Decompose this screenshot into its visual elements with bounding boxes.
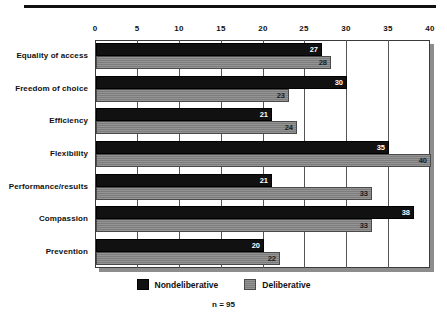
- bar-value-label: 21: [260, 111, 268, 119]
- category-label: Equality of access: [0, 51, 88, 60]
- x-tick-label-5: 5: [135, 24, 140, 33]
- bar-deliberative: 22: [96, 252, 280, 265]
- legend-label: Nondeliberative: [155, 280, 219, 290]
- category-label: Freedom of choice: [0, 84, 88, 93]
- bar-nondeliberative: 38: [96, 206, 414, 219]
- bar-deliberative: 23: [96, 89, 289, 102]
- sample-size-footnote: n = 95: [0, 300, 447, 309]
- bar-nondeliberative: 21: [96, 174, 272, 187]
- bar-deliberative: 33: [96, 219, 372, 232]
- x-tick-label-0: 0: [93, 24, 98, 33]
- bar-deliberative: 24: [96, 121, 297, 134]
- category-label: Flexibility: [0, 149, 88, 158]
- bar-value-label: 22: [268, 255, 276, 263]
- bar-nondeliberative: 21: [96, 108, 272, 121]
- bar-value-label: 33: [360, 190, 368, 198]
- x-tick-label-20: 20: [258, 24, 267, 33]
- legend-swatch-icon: [244, 279, 256, 290]
- bar-nondeliberative: 30: [96, 76, 347, 89]
- bar-value-label: 21: [260, 177, 268, 185]
- bar-value-label: 38: [402, 209, 410, 217]
- bar-value-label: 20: [252, 242, 260, 250]
- x-tick-label-10: 10: [174, 24, 183, 33]
- legend-label: Deliberative: [262, 280, 310, 290]
- bar-deliberative: 33: [96, 187, 372, 200]
- category-label: Efficiency: [0, 116, 88, 125]
- bar-deliberative: 40: [96, 154, 431, 167]
- category-label: Performance/results: [0, 182, 88, 191]
- grouped-bar-chart: 0510152025303540 Equality of accessFreed…: [0, 0, 447, 321]
- bar-value-label: 30: [335, 79, 343, 87]
- plot-shadow-bottom: [99, 268, 434, 272]
- bar-nondeliberative: 20: [96, 239, 264, 252]
- bar-value-label: 35: [377, 144, 385, 152]
- bar-value-label: 40: [419, 157, 427, 165]
- legend-item-nondeliberative[interactable]: Nondeliberative: [137, 279, 219, 290]
- bar-value-label: 23: [277, 92, 285, 100]
- bar-nondeliberative: 35: [96, 141, 389, 154]
- bar-value-label: 33: [360, 222, 368, 230]
- category-label: Compassion: [0, 214, 88, 223]
- x-tick-label-35: 35: [383, 24, 392, 33]
- bar-deliberative: 28: [96, 56, 331, 69]
- legend-swatch-icon: [137, 279, 149, 290]
- x-tick-label-40: 40: [425, 24, 434, 33]
- bar-value-label: 27: [310, 46, 318, 54]
- category-label: Prevention: [0, 247, 88, 256]
- bar-nondeliberative: 27: [96, 43, 322, 56]
- x-tick-label-30: 30: [341, 24, 350, 33]
- bar-value-label: 28: [319, 59, 327, 67]
- bar-value-label: 24: [285, 124, 293, 132]
- x-tick-label-15: 15: [216, 24, 225, 33]
- legend-item-deliberative[interactable]: Deliberative: [244, 279, 310, 290]
- x-tick-label-25: 25: [299, 24, 308, 33]
- chart-legend: NondeliberativeDeliberative: [0, 279, 447, 290]
